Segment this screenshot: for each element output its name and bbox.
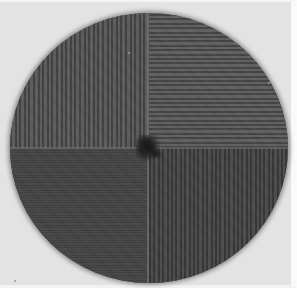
speck [128, 52, 130, 54]
speck [268, 82, 270, 84]
circular-specimen [10, 13, 288, 283]
image-frame [0, 0, 297, 288]
speck [14, 280, 16, 282]
grain-overlay [10, 13, 288, 283]
